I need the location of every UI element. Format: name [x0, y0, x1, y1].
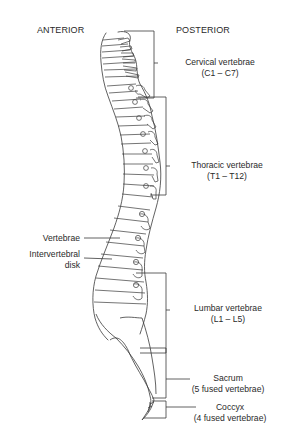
region-label-coccyx: Coccyx (4 fused vertebrae) [170, 402, 287, 424]
thoracic-name: Thoracic vertebrae [171, 160, 283, 171]
vertebrae-label: Vertebrae [10, 233, 80, 244]
pointer-lines [84, 238, 120, 259]
lumbar-range: (L1 – L5) [172, 314, 284, 325]
cervical-name: Cervical vertebrae [160, 57, 280, 68]
sacrum-range: (5 fused vertebrae) [168, 384, 287, 395]
coccyx-range: (4 fused vertebrae) [170, 413, 287, 424]
thoracic-range: (T1 – T12) [171, 171, 283, 182]
lumbar-name: Lumbar vertebrae [172, 303, 284, 314]
disk-pointer [84, 258, 112, 259]
region-label-lumbar: Lumbar vertebrae (L1 – L5) [172, 303, 284, 325]
region-label-sacrum: Sacrum (5 fused vertebrae) [168, 373, 287, 395]
region-brackets [124, 31, 196, 418]
region-label-thoracic: Thoracic vertebrae (T1 – T12) [171, 160, 283, 182]
region-label-cervical: Cervical vertebrae (C1 – C7) [160, 57, 280, 79]
sacrum-name: Sacrum [168, 373, 287, 384]
disk-label-line2: disk [2, 260, 80, 271]
intervertebral-disk-label: Intervertebral disk [2, 249, 80, 271]
disk-label-line1: Intervertebral [2, 249, 80, 260]
cervical-range: (C1 – C7) [160, 68, 280, 79]
coccyx-name: Coccyx [170, 402, 287, 413]
vertebral-segments [94, 38, 159, 304]
sacrum-coccyx-shape [96, 314, 156, 420]
